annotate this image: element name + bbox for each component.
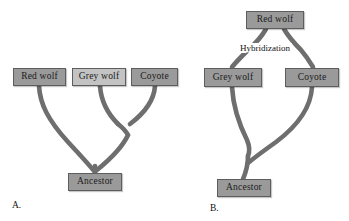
panel-b-node-ancestor-label: Ancestor	[226, 183, 262, 193]
figure-canvas: Red wolf Grey wolf Coyote Ancestor A. Re…	[0, 0, 349, 221]
panel-b-node-red-wolf[interactable]: Red wolf	[246, 11, 304, 29]
panel-b-node-red-wolf-label: Red wolf	[257, 15, 294, 25]
branch-b-trunk	[243, 156, 248, 179]
panel-b-hybridization-label: Hybridization	[238, 43, 292, 53]
panel-b-node-ancestor[interactable]: Ancestor	[217, 179, 271, 197]
panel-b-branches	[0, 0, 349, 221]
panel-b-node-coyote[interactable]: Coyote	[285, 68, 339, 87]
panel-b-node-grey-wolf[interactable]: Grey wolf	[204, 68, 262, 87]
panel-b-node-coyote-label: Coyote	[298, 73, 327, 83]
panel-b-node-grey-wolf-label: Grey wolf	[213, 73, 254, 83]
branch-b-grey-wolf	[232, 87, 249, 156]
branch-b-coyote	[248, 87, 312, 163]
panel-b-label: B.	[210, 203, 219, 213]
